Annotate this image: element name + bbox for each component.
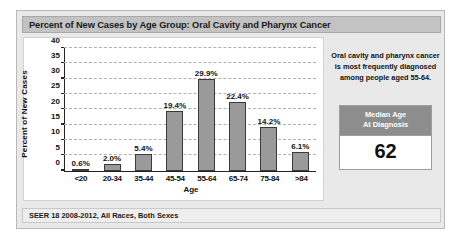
bar-group[interactable]: 29.9% [191,48,222,171]
y-axis-tick-mark [61,77,64,78]
y-axis-tick-label: 25 [51,81,60,90]
median-age-box-header: Median Age At Diagnosis [340,106,431,136]
y-axis-tick-label: 5 [56,142,60,151]
bar[interactable] [229,102,246,171]
page-title: Percent of New Cases by Age Group: Oral … [23,20,331,30]
bar[interactable] [104,164,121,170]
bar-group[interactable]: 2.0% [96,48,127,171]
info-panel: Oral cavity and pharynx cancer is most f… [330,37,441,201]
y-axis-tick-mark [61,108,64,109]
x-axis-tick-label: >84 [286,174,318,183]
bar[interactable] [260,127,277,171]
x-axis-line [64,171,316,172]
x-axis-tick-label: 55-64 [191,174,223,183]
chart-card: Percent of New Cases 0510152025303540 0.… [23,37,324,201]
y-axis-tick-label: 10 [51,127,60,136]
bar-group[interactable]: 5.4% [128,48,159,171]
y-axis-tick-mark [61,169,64,170]
y-axis-tick-mark [61,47,64,48]
median-age-head-line1: Median Age [365,110,406,119]
callout-text: Oral cavity and pharynx cancer is most f… [330,51,441,84]
x-axis-title: Age [65,185,317,194]
y-axis-tick-label: 20 [51,96,60,105]
x-axis-tick-labels: <2020-3435-4445-5455-6465-7475-84>84 [65,174,317,183]
chart-widget: Percent of New Cases by Age Group: Oral … [16,10,445,229]
y-axis-tick-label: 0 [56,158,60,167]
y-axis-tick-label: 30 [51,66,60,75]
bar-value-label: 29.9% [195,69,218,78]
median-age-head-line2: At Diagnosis [342,120,429,130]
bar[interactable] [135,154,152,171]
y-axis-tick-mark [61,123,64,124]
bar-group[interactable]: 0.6% [65,48,96,171]
median-age-box: Median Age At Diagnosis 62 [339,105,432,170]
y-axis-title: Percent of New Cases [20,62,29,166]
source-footer: SEER 18 2008-2012, All Races, Both Sexes [22,208,441,223]
y-axis-tick-mark [61,62,64,63]
bar-value-label: 5.4% [134,144,152,153]
bar[interactable] [198,79,215,171]
plot-area: 0510152025303540 0.6%2.0%5.4%19.4%29.9%2… [64,48,316,172]
y-axis-tick-label: 40 [51,35,60,44]
bar-group[interactable]: 14.2% [253,48,284,171]
bar-value-label: 19.4% [163,101,186,110]
y-axis-tick-label: 15 [51,112,60,121]
y-axis-tick-mark [61,139,64,140]
bar-value-label: 6.1% [291,142,309,151]
bar-group[interactable]: 6.1% [285,48,316,171]
y-axis-tick-mark [61,93,64,94]
x-axis-tick-label: 35-44 [128,174,160,183]
x-axis-tick-label: 20-34 [97,174,129,183]
bar-group[interactable]: 22.4% [222,48,253,171]
bar-value-label: 0.6% [72,159,90,168]
bar-value-label: 2.0% [103,154,121,163]
bar[interactable] [72,169,89,171]
source-text: SEER 18 2008-2012, All Races, Both Sexes [23,211,178,220]
median-age-value: 62 [340,136,431,169]
bar-series: 0.6%2.0%5.4%19.4%29.9%22.4%14.2%6.1% [65,48,316,171]
bar-value-label: 14.2% [258,117,281,126]
x-axis-tick-label: <20 [65,174,97,183]
bar-group[interactable]: 19.4% [159,48,190,171]
y-axis-tick-label: 35 [51,50,60,59]
y-axis-tick-mark [61,154,64,155]
x-axis-tick-label: 45-54 [160,174,192,183]
x-axis-tick-label: 65-74 [223,174,255,183]
bar-value-label: 22.4% [226,92,249,101]
bar[interactable] [166,111,183,170]
bar[interactable] [292,152,309,171]
x-axis-tick-label: 75-84 [254,174,286,183]
widget-title-bar: Percent of New Cases by Age Group: Oral … [22,16,441,33]
